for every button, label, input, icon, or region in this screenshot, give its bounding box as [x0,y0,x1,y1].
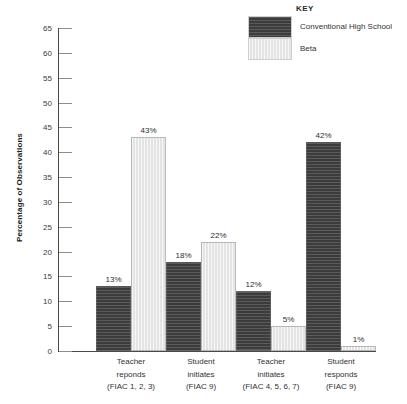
bar-value-label: 43% [140,126,156,135]
x-category-label: Studentresponds(FIAC 9) [284,356,398,394]
y-axis-title: Percentage of Observations [15,118,24,258]
bar-beta[interactable]: 43% [131,137,166,351]
x-axis-category-labels: Teacherreponds(FIAC 1, 2, 3)Studentiniti… [58,356,376,402]
y-tick-label: 55 [43,73,52,82]
bar-value-label: 42% [315,131,331,140]
bar-chart: KEY Conventional High School Beta Percen… [0,0,407,404]
bar-group: 12%5% [236,28,306,351]
x-category-label-line: Student [284,356,398,369]
bar-beta[interactable]: 1% [341,346,376,351]
bar-conventional-high-school[interactable]: 12% [236,291,271,351]
bar-group: 18%22% [166,28,236,351]
bar-value-label: 12% [245,280,261,289]
y-tick-label: 50 [43,98,52,107]
bar-value-label: 5% [283,315,295,324]
bar-value-label: 18% [175,251,191,260]
y-tick-label: 30 [43,197,52,206]
y-tick-label: 15 [43,272,52,281]
x-category-label-line: responds [284,369,398,382]
x-axis-line [58,351,376,352]
bar-value-label: 22% [210,231,226,240]
bar-group: 42%1% [306,28,376,351]
bar-conventional-high-school[interactable]: 18% [166,262,201,351]
y-tick-label: 25 [43,222,52,231]
bar-beta[interactable]: 22% [201,242,236,351]
bar-value-label: 13% [105,275,121,284]
y-tick-label: 45 [43,123,52,132]
bar-series-container: 13%43%18%22%12%5%42%1% [58,28,376,351]
bar-conventional-high-school[interactable]: 13% [96,286,131,351]
y-tick-label: 40 [43,148,52,157]
bar-conventional-high-school[interactable]: 42% [306,142,341,351]
y-tick-label: 60 [43,48,52,57]
y-tick-label: 0 [48,347,52,356]
bar-beta[interactable]: 5% [271,326,306,351]
y-tick-label: 35 [43,173,52,182]
bar-value-label: 1% [353,335,365,344]
bar-group: 13%43% [96,28,166,351]
plot-area: 05101520253035404550556065 13%43%18%22%1… [58,28,376,352]
legend-title: KEY [296,4,404,13]
y-tick-label: 5 [48,322,52,331]
y-tick-label: 65 [43,24,52,33]
y-tick-mark [59,351,72,352]
x-category-label-line: (FIAC 9) [284,381,398,394]
y-tick-label: 20 [43,247,52,256]
y-tick-label: 10 [43,297,52,306]
